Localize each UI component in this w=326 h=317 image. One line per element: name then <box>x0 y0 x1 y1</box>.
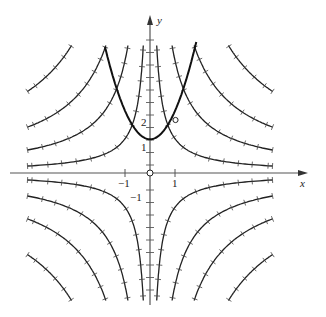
hyperbola-curve <box>28 46 128 151</box>
x-axis-arrow-icon <box>298 170 308 176</box>
y-tick-label-1: 1 <box>141 141 147 153</box>
hyperbola-curve <box>28 196 128 301</box>
y-tick-label-neg1: −1 <box>130 191 142 203</box>
hyperbola-curve <box>194 219 272 301</box>
y-tick-label-2: 2 <box>141 116 147 128</box>
origin-point <box>147 170 153 176</box>
x-axis-label: x <box>299 177 305 189</box>
hyperbola-curve <box>28 46 106 128</box>
x-tick-label-neg1: −1 <box>118 177 130 189</box>
hyperbola-curve <box>194 46 272 128</box>
x-tick-label-1: 1 <box>172 177 178 189</box>
diagram-figure: x y −1 1 −1 1 2 <box>0 0 326 317</box>
hyperbola-curve <box>172 46 272 151</box>
plot-canvas: x y −1 1 −1 1 2 <box>0 0 326 317</box>
y-axis-label: y <box>156 14 162 26</box>
hyperbola-curve <box>172 196 272 301</box>
y-axis-arrow-icon <box>147 15 153 25</box>
marked-point <box>173 117 178 122</box>
hyperbola-curve <box>28 219 106 301</box>
